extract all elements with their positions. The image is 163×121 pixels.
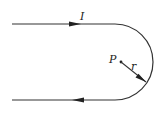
bottom-wire [12, 98, 115, 103]
point-label: P [108, 53, 117, 66]
current-label: I [79, 10, 85, 23]
top-wire [12, 22, 115, 27]
current-arrow-left-icon [72, 98, 84, 103]
hairpin-wire-diagram: I P r [0, 0, 163, 121]
radius-label: r [131, 60, 137, 73]
